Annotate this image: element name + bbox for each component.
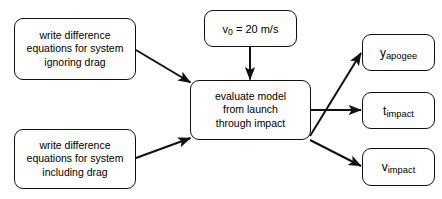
y-apogee-subscript: apogee bbox=[386, 51, 417, 61]
node-y-apogee[interactable]: yapogee bbox=[362, 34, 435, 71]
flowchart-canvas: write difference equations for system ig… bbox=[0, 0, 442, 199]
node-label-line: equations for system bbox=[27, 42, 124, 55]
velocity-equals: = bbox=[233, 23, 246, 35]
node-initial-velocity[interactable]: v0 = 20 m/s bbox=[204, 10, 297, 47]
node-label-line: write difference bbox=[27, 29, 124, 42]
node-label: write difference equations for system in… bbox=[27, 139, 124, 179]
t-impact-label: timpact bbox=[383, 104, 414, 118]
v-impact-subscript: impact bbox=[388, 165, 416, 175]
t-impact-subscript: impact bbox=[386, 109, 414, 119]
edge-model-to-v-impact bbox=[310, 140, 361, 166]
edge-model-to-y-apogee bbox=[310, 53, 361, 136]
y-apogee-label: yapogee bbox=[380, 46, 417, 60]
edge-no-drag-to-model bbox=[136, 50, 191, 83]
node-evaluate-model[interactable]: evaluate model from launch through impac… bbox=[190, 80, 311, 140]
node-label: write difference equations for system ig… bbox=[27, 29, 124, 69]
v-impact-label: vimpact bbox=[382, 160, 416, 174]
edge-with-drag-to-model bbox=[136, 138, 191, 158]
node-v-impact[interactable]: vimpact bbox=[362, 148, 435, 186]
node-label-line: evaluate model bbox=[215, 90, 286, 103]
node-label-line: equations for system bbox=[27, 152, 124, 165]
node-label-line: from launch bbox=[215, 103, 286, 116]
node-label: evaluate model from launch through impac… bbox=[215, 90, 286, 130]
node-write-equations-ignoring-drag[interactable]: write difference equations for system ig… bbox=[14, 18, 136, 80]
node-label-line: ignoring drag bbox=[27, 56, 124, 69]
node-label-line: including drag bbox=[27, 166, 124, 179]
node-t-impact[interactable]: timpact bbox=[362, 92, 435, 129]
velocity-value: 20 m/s bbox=[245, 23, 278, 35]
node-label-line: write difference bbox=[27, 139, 124, 152]
node-write-equations-including-drag[interactable]: write difference equations for system in… bbox=[14, 129, 136, 189]
initial-velocity-label: v0 = 20 m/s bbox=[223, 23, 279, 35]
node-label-line: through impact bbox=[215, 117, 286, 130]
